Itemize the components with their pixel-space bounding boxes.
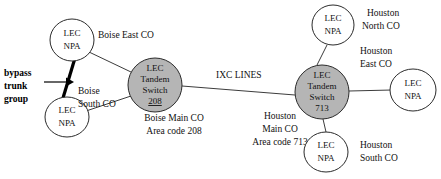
boise-south-lec-line1: LEC [59,105,76,115]
houston-east-lec-circle [390,69,436,111]
houston-north-lec-circle [312,5,354,45]
edge-houston-tandem-to-houston-east [349,90,392,91]
boise-tandem-line4: 208 [148,96,162,106]
boise-east-lec-circle [50,19,94,61]
label-boise-east-co: Boise East CO [98,30,154,40]
edge-houston-north-to-houston-tandem [317,45,327,65]
edge-houston-tandem-to-houston-south [323,119,326,132]
houston-tandem-line1: LEC [314,70,331,80]
label-boise-main-co-line1: Boise Main CO [144,113,204,123]
houston-tandem-line4: 713 [315,103,329,113]
houston-north-lec-line2: NPA [324,26,342,36]
node-houston-east-lec[interactable]: LEC NPA [390,69,436,111]
label-houston-main-co-line2: Main CO [262,124,298,134]
label-houston-north-co-line2: North CO [362,21,400,31]
label-houston-south-co-line1: Houston [360,140,392,150]
node-houston-south-lec[interactable]: LEC NPA [304,132,348,172]
label-ixc-lines: IXC LINES [216,70,262,80]
label-houston-east-co-line1: Houston [360,46,392,56]
houston-tandem-line2: Tandem [308,81,337,91]
houston-north-lec-line1: LEC [325,13,342,23]
boise-tandem-line2: Tandem [141,74,170,84]
label-boise-south-co-line2: South CO [78,99,116,109]
edge-boise-east-to-boise-tandem [89,52,131,72]
node-boise-tandem-switch[interactable]: LEC Tandem Switch 208 [128,58,182,112]
diagram-canvas: LEC NPA Boise East CO LEC NPA Boise Sout… [0,0,441,179]
network-diagram: LEC NPA Boise East CO LEC NPA Boise Sout… [0,0,441,179]
houston-east-lec-line1: LEC [405,78,422,88]
label-houston-main-co-line3: Area code 713 [252,137,308,147]
label-boise-main-co-line2: Area code 208 [146,126,202,136]
node-boise-east-lec[interactable]: LEC NPA [50,19,94,61]
boise-south-lec-line2: NPA [58,118,76,128]
label-bypass-line3: group [4,94,28,104]
label-houston-main-co-line1: Houston [264,111,296,121]
label-houston-south-co-line2: South CO [360,153,398,163]
node-houston-tandem-switch[interactable]: LEC Tandem Switch 713 [295,65,349,119]
label-houston-north-co-line1: Houston [367,8,399,18]
boise-east-lec-line1: LEC [64,28,81,38]
label-bypass-line2: trunk [4,81,28,91]
boise-east-lec-line2: NPA [63,41,81,51]
houston-south-lec-line2: NPA [317,153,335,163]
houston-tandem-line3: Switch [309,92,335,102]
label-houston-east-co-line2: East CO [360,59,392,69]
houston-east-lec-line2: NPA [404,91,422,101]
edge-ixc-lines [182,86,295,95]
houston-south-lec-circle [304,132,348,172]
boise-tandem-line1: LEC [147,63,164,73]
boise-tandem-line3: Switch [142,85,168,95]
label-boise-south-co-line1: Boise [78,86,100,96]
edge-bypass-trunk-group [63,58,75,98]
node-houston-north-lec[interactable]: LEC NPA [312,5,354,45]
label-bypass-line1: bypass [4,68,32,78]
houston-south-lec-line1: LEC [318,140,335,150]
